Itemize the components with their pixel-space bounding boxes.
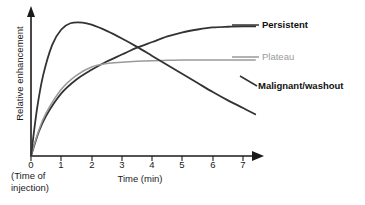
series-label-malignant: Malignant/washout — [258, 81, 344, 91]
curve-persistent — [31, 26, 255, 156]
x-tick-label-2: 2 — [84, 160, 100, 170]
y-axis-title: Relative enhancement — [14, 9, 25, 139]
series-label-persistent: Persistent — [262, 20, 308, 30]
series-label-plateau: Plateau — [262, 52, 294, 62]
enhancement-curve-chart: Relative enhancement 0 1 2 3 4 5 6 7 Tim… — [0, 0, 365, 205]
x-tick-label-4: 4 — [144, 160, 160, 170]
x-tick-label-6: 6 — [205, 160, 221, 170]
x-tick-label-1: 1 — [53, 160, 69, 170]
x-tick-label-7: 7 — [235, 160, 251, 170]
curve-series-group — [31, 22, 255, 156]
x-axis-title: Time (min) — [104, 174, 176, 184]
x-tick-label-5: 5 — [174, 160, 190, 170]
injection-time-note: (Time of injection) — [11, 170, 49, 194]
injection-note-line-1: (Time of — [11, 170, 49, 182]
y-axis-arrow — [27, 6, 35, 17]
x-tick-label-0: 0 — [23, 160, 39, 170]
injection-note-line-2: injection) — [11, 182, 49, 194]
curve-plateau — [31, 60, 255, 156]
chart-plot-area — [0, 0, 365, 205]
leader-line-malignant — [240, 76, 257, 86]
x-tick-label-3: 3 — [114, 160, 130, 170]
x-axis-arrow — [252, 151, 264, 161]
